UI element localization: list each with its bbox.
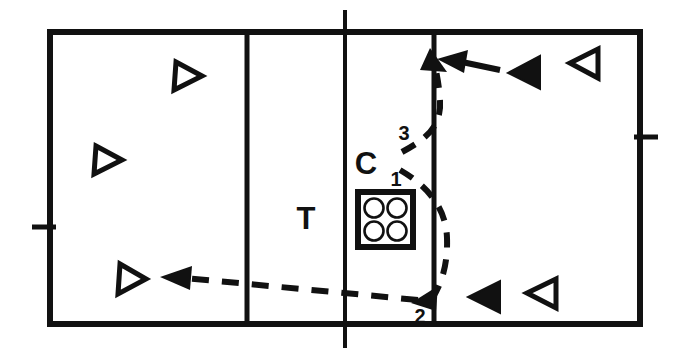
player-marker-outline-left: [527, 279, 556, 308]
player-marker-filled-left: [468, 281, 500, 313]
movement-path-attack: [462, 62, 500, 70]
label-path-3: 3: [398, 122, 409, 144]
court-diagram-root: C T 3 1 2: [0, 0, 673, 359]
player-marker-outline-right: [118, 264, 146, 294]
ball-cart-ball: [365, 222, 384, 241]
ball-cart: [358, 192, 413, 247]
court-diagram-svg: C T 3 1 2: [0, 0, 673, 359]
label-target: T: [297, 201, 316, 236]
player-marker-outline-right: [94, 146, 122, 174]
player-marker-outline-right: [174, 62, 202, 90]
movement-path-transition: [185, 278, 418, 300]
ball-cart-ball: [388, 222, 407, 241]
player-marker-outline-left: [570, 49, 598, 78]
ball-cart-box: [358, 192, 413, 247]
player-marker-filled-left: [508, 56, 540, 89]
ball-cart-ball: [365, 199, 384, 218]
ball-cart-ball: [388, 199, 407, 218]
label-path-2: 2: [414, 305, 425, 327]
label-coach: C: [355, 146, 377, 181]
label-path-1: 1: [390, 168, 401, 190]
movement-arrowhead-transition: [160, 266, 192, 290]
